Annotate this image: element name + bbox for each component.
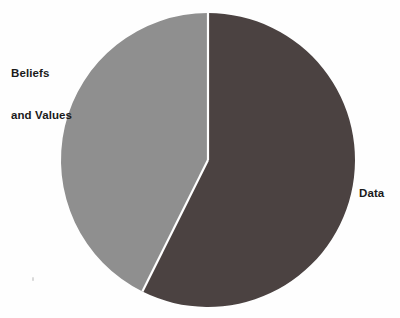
pie-label-beliefs-and-values: Beliefs and Values	[11, 38, 72, 150]
pie-label-beliefs-line-2: and Values	[11, 108, 72, 122]
pie-label-data: Data	[359, 186, 384, 200]
scan-speck	[32, 277, 34, 281]
pie-label-beliefs-line-1: Beliefs	[11, 66, 72, 80]
pie-chart-figure: Beliefs and Values Data	[0, 0, 400, 318]
